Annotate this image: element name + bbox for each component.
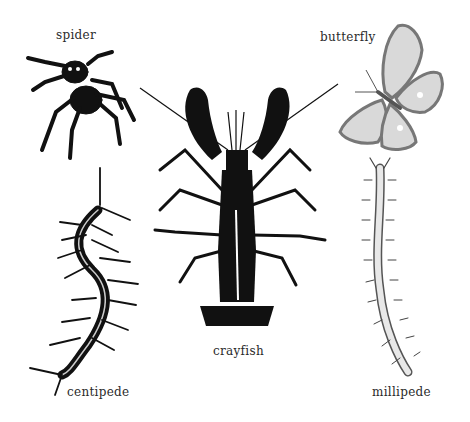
spider-icon bbox=[28, 52, 134, 158]
millipede-icon bbox=[362, 158, 420, 372]
butterfly-icon bbox=[340, 25, 442, 149]
centipede-icon bbox=[30, 168, 138, 395]
crayfish-icon bbox=[140, 84, 338, 326]
illustration-canvas bbox=[0, 0, 470, 422]
